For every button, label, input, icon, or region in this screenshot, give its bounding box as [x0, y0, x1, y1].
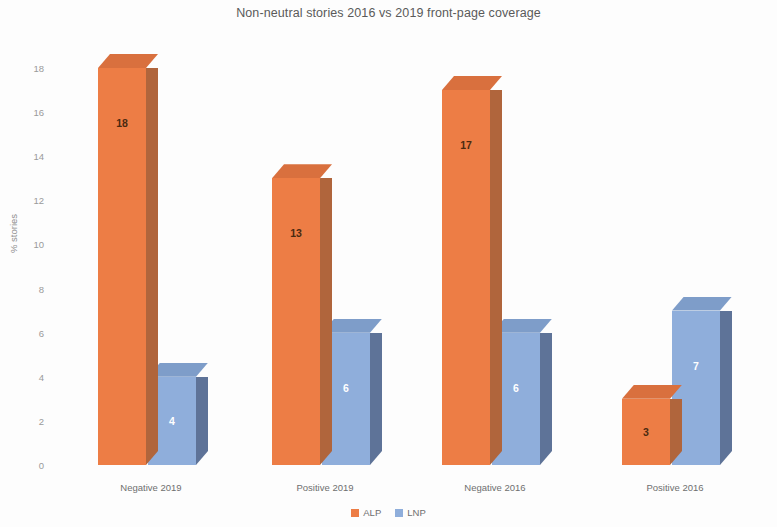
bar-lnp-0[interactable] — [148, 377, 196, 465]
y-axis-tick-label: 16 — [18, 107, 44, 118]
bar-value-label: 6 — [513, 382, 519, 394]
x-axis-tick-label: Positive 2016 — [646, 482, 703, 493]
bar-front-face — [442, 90, 490, 465]
bar-front-face — [492, 333, 540, 465]
plot-area: 18413617637 — [0, 0, 777, 527]
bar-side-face — [370, 333, 382, 465]
y-axis-tick-label: 18 — [18, 63, 44, 74]
legend: ALPLNP — [0, 507, 777, 518]
bar-side-face — [196, 377, 208, 465]
y-axis-tick-label: 12 — [18, 195, 44, 206]
y-axis-tick-label: 0 — [18, 460, 44, 471]
x-axis-tick-label: Negative 2016 — [464, 482, 525, 493]
bar-top-face — [492, 319, 552, 333]
legend-swatch-icon — [395, 509, 403, 517]
bar-value-label: 18 — [116, 117, 128, 129]
bar-top-face — [148, 363, 208, 377]
bar-alp-3[interactable] — [622, 399, 670, 465]
legend-item-alp[interactable]: ALP — [351, 507, 381, 518]
bar-alp-0[interactable] — [98, 68, 146, 465]
y-axis-tick-label: 8 — [18, 283, 44, 294]
bar-side-face — [540, 333, 552, 465]
bar-value-label: 4 — [169, 415, 175, 427]
y-axis-tick-label: 10 — [18, 239, 44, 250]
bar-front-face — [148, 377, 196, 465]
bar-side-face — [146, 68, 158, 465]
y-axis-tick-label: 6 — [18, 327, 44, 338]
bar-top-face — [672, 297, 732, 311]
bar-top-face — [272, 164, 332, 178]
bar-front-face — [672, 311, 720, 465]
legend-label: LNP — [407, 507, 425, 518]
bar-value-label: 3 — [643, 426, 649, 438]
bar-alp-1[interactable] — [272, 178, 320, 465]
bar-front-face — [272, 178, 320, 465]
x-axis-tick-label: Positive 2019 — [296, 482, 353, 493]
bar-front-face — [622, 399, 670, 465]
bar-top-face — [98, 54, 158, 68]
bar-lnp-2[interactable] — [492, 333, 540, 465]
bar-side-face — [720, 311, 732, 465]
bar-top-face — [622, 385, 682, 399]
page-title: Non-neutral stories 2016 vs 2019 front-p… — [0, 6, 777, 20]
bar-front-face — [322, 333, 370, 465]
bar-value-label: 17 — [460, 139, 472, 151]
bar-side-face — [490, 90, 502, 465]
bar-value-label: 6 — [343, 382, 349, 394]
x-axis-tick-label: Negative 2019 — [120, 482, 181, 493]
legend-item-lnp[interactable]: LNP — [395, 507, 425, 518]
bar-lnp-1[interactable] — [322, 333, 370, 465]
bar-lnp-3[interactable] — [672, 311, 720, 465]
legend-label: ALP — [363, 507, 381, 518]
bar-front-face — [98, 68, 146, 465]
legend-swatch-icon — [351, 509, 359, 517]
bar-alp-2[interactable] — [442, 90, 490, 465]
y-axis-tick-label: 2 — [18, 415, 44, 426]
bar-top-face — [322, 319, 382, 333]
y-axis-tick-label: 14 — [18, 151, 44, 162]
chart-page: Non-neutral stories 2016 vs 2019 front-p… — [0, 0, 777, 527]
bar-side-face — [320, 178, 332, 465]
bar-value-label: 13 — [290, 227, 302, 239]
y-axis-tick-label: 4 — [18, 371, 44, 382]
y-axis-title: % stories — [8, 199, 19, 269]
bar-value-label: 7 — [693, 360, 699, 372]
bar-side-face — [670, 399, 682, 465]
bar-top-face — [442, 76, 502, 90]
